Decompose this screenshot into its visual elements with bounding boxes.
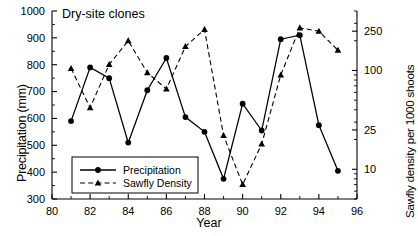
- data-point-precipitation: [278, 36, 284, 42]
- y-axis-right-tick-label: 250: [364, 25, 382, 37]
- y-axis-left-tick-label: 400: [27, 166, 45, 178]
- x-axis-tick-label: 86: [160, 205, 172, 217]
- data-point-sawfly-density: [258, 141, 265, 147]
- data-point-precipitation: [163, 55, 169, 61]
- data-point-sawfly-density: [277, 72, 284, 78]
- data-point-precipitation: [202, 129, 208, 135]
- x-axis-tick-label: 88: [198, 205, 210, 217]
- y-axis-right-tick-label: 25: [364, 124, 376, 136]
- data-point-precipitation: [316, 122, 322, 128]
- data-point-precipitation: [335, 168, 341, 174]
- legend-item-sawfly-density-label: Sawfly Density: [123, 177, 193, 189]
- x-axis-tick-label: 94: [313, 205, 325, 217]
- y-axis-right-tick-label: 10: [364, 163, 376, 175]
- x-axis-tick-label: 80: [46, 205, 58, 217]
- data-point-sawfly-density: [163, 85, 170, 91]
- y-axis-left-tick-label: 900: [27, 32, 45, 44]
- data-point-sawfly-density: [125, 37, 132, 43]
- data-point-precipitation: [221, 176, 227, 182]
- x-axis-tick-label: 82: [84, 205, 96, 217]
- data-point-precipitation: [106, 75, 112, 81]
- y-axis-left-tick-label: 800: [27, 59, 45, 71]
- data-point-precipitation: [240, 101, 246, 107]
- data-point-precipitation: [144, 87, 150, 93]
- y-axis-left-tick-label: 1000: [21, 5, 45, 17]
- data-point-sawfly-density: [239, 181, 246, 187]
- y-axis-right-tick-label: 100: [364, 64, 382, 76]
- legend-item-precipitation-label: Precipitation: [123, 164, 181, 176]
- y-axis-left-tick-label: 600: [27, 112, 45, 124]
- data-point-precipitation: [68, 118, 74, 124]
- x-axis-tick-label: 84: [122, 205, 134, 217]
- x-axis-tick-label: 90: [237, 205, 249, 217]
- chart-figure: Dry-site clones Precipitation (mm) Sawfl…: [0, 0, 418, 236]
- legend-item-precipitation-sample-marker: [95, 167, 101, 173]
- y-axis-left-tick-label: 300: [27, 193, 45, 205]
- data-point-sawfly-density: [201, 26, 208, 32]
- chart-plot-area: 3004005006007008009001000102510025080828…: [0, 0, 418, 236]
- data-point-precipitation: [183, 114, 189, 120]
- data-point-precipitation: [87, 65, 93, 71]
- y-axis-left-tick-label: 500: [27, 139, 45, 151]
- data-point-sawfly-density: [296, 24, 303, 30]
- y-axis-left-tick-label: 700: [27, 85, 45, 97]
- x-axis-tick-label: 96: [351, 205, 363, 217]
- x-axis-tick-label: 92: [275, 205, 287, 217]
- data-point-sawfly-density: [220, 132, 227, 138]
- data-point-sawfly-density: [68, 65, 75, 71]
- data-point-sawfly-density: [87, 104, 94, 110]
- data-point-precipitation: [125, 140, 131, 146]
- data-point-sawfly-density: [144, 69, 151, 75]
- data-point-precipitation: [259, 128, 265, 134]
